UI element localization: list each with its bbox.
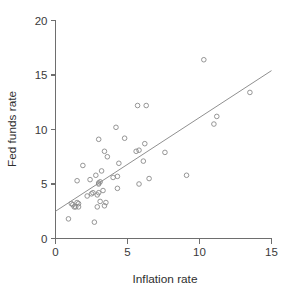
data-point-marker <box>95 205 100 210</box>
data-point-marker <box>111 175 116 180</box>
data-point-marker <box>137 148 142 153</box>
axes <box>56 21 272 239</box>
data-point-marker <box>134 149 139 154</box>
data-point-marker <box>88 177 93 182</box>
data-point-marker <box>122 136 127 141</box>
y-tick-label: 20 <box>35 15 48 27</box>
y-tick-label: 10 <box>35 124 48 136</box>
y-axis-title: Fed funds rate <box>5 91 19 168</box>
data-point-marker <box>66 217 71 222</box>
data-point-marker <box>81 163 86 168</box>
data-point-marker <box>94 173 99 178</box>
data-point-marker <box>105 154 110 159</box>
data-point-marker <box>85 194 90 199</box>
regression-line <box>56 71 272 212</box>
data-point-marker <box>248 90 253 95</box>
data-point-marker <box>115 174 120 179</box>
data-point-marker <box>117 161 122 166</box>
data-point-marker <box>141 159 146 164</box>
data-point-marker <box>115 186 120 191</box>
y-tick-label: 5 <box>41 178 47 190</box>
data-point-marker <box>92 220 97 225</box>
tick-marks <box>51 21 272 244</box>
data-point-marker <box>163 150 168 155</box>
x-tick-label: 0 <box>52 246 58 258</box>
data-point-marker <box>144 103 149 108</box>
y-tick-label: 15 <box>35 69 48 81</box>
data-point-marker <box>147 176 152 181</box>
data-point-marker <box>214 114 219 119</box>
y-tick-label: 0 <box>41 233 47 245</box>
data-point-marker <box>202 57 207 62</box>
x-tick-label: 5 <box>124 246 130 258</box>
tick-labels: 05101520051015 <box>35 15 278 258</box>
data-point-marker <box>96 137 101 142</box>
data-point-marker <box>101 188 106 193</box>
trend-line <box>56 71 272 212</box>
x-tick-label: 15 <box>265 246 278 258</box>
data-point-marker <box>102 149 107 154</box>
plot-canvas: 05101520051015 Inflation rate Fed funds … <box>0 0 289 292</box>
scatter-plot-figure: 05101520051015 Inflation rate Fed funds … <box>0 0 289 292</box>
data-point-marker <box>184 173 189 178</box>
x-axis-title: Inflation rate <box>133 272 198 286</box>
data-point-marker <box>98 199 103 204</box>
data-point-marker <box>135 103 140 108</box>
data-point-marker <box>76 201 81 206</box>
data-point-marker <box>99 169 104 174</box>
data-points <box>66 57 252 224</box>
data-point-marker <box>142 141 147 146</box>
x-tick-label: 10 <box>193 246 206 258</box>
data-point-marker <box>212 122 217 127</box>
data-point-marker <box>114 125 119 130</box>
data-point-marker <box>137 182 142 187</box>
data-point-marker <box>91 190 96 195</box>
data-point-marker <box>75 178 80 183</box>
